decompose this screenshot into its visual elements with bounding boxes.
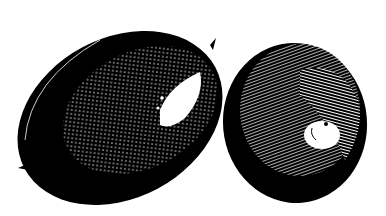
left-fruit-tip-top: [210, 38, 216, 50]
right-fruit: [216, 37, 373, 209]
citrus-illustration: [0, 0, 386, 216]
left-fruit: [0, 0, 253, 216]
right-fruit-highlight: [304, 121, 340, 149]
illustration-canvas: [0, 0, 386, 216]
